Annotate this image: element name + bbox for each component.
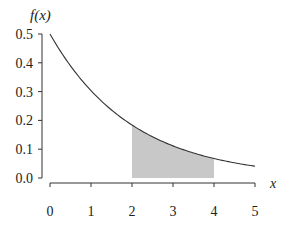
y-tick-label: 0.4	[16, 56, 34, 71]
chart: 0.00.10.20.30.40.5 012345 f(x) x	[0, 0, 290, 232]
y-tick-label: 0.0	[16, 171, 34, 186]
y-axis-label: f(x)	[30, 7, 51, 24]
x-tick-label: 5	[252, 204, 259, 219]
x-tick-label: 1	[88, 204, 95, 219]
x-tick-label: 3	[170, 204, 177, 219]
x-tick-label: 2	[129, 204, 136, 219]
y-tick-label: 0.5	[16, 27, 34, 42]
y-tick-label: 0.1	[16, 142, 34, 157]
y-tick-label: 0.2	[16, 113, 34, 128]
y-tick-label: 0.3	[16, 85, 34, 100]
x-ticks: 012345	[47, 183, 259, 219]
y-ticks: 0.00.10.20.30.40.5	[16, 27, 43, 186]
x-tick-label: 0	[47, 204, 54, 219]
x-tick-label: 4	[211, 204, 218, 219]
x-axis-label: x	[269, 176, 277, 191]
